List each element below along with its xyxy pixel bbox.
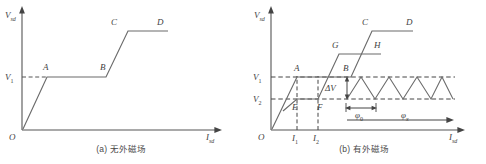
x-axis-b bbox=[271, 127, 465, 133]
point-label-b-A: A bbox=[293, 63, 300, 73]
oscillation-waveform-b bbox=[347, 77, 453, 99]
point-label-a-A: A bbox=[42, 62, 49, 72]
tick-label-v1-a: V1 bbox=[5, 72, 14, 84]
panel-a-no-magnetic-field: Vsd Isd O V1 A B C D (a) 无外磁场 bbox=[0, 0, 243, 164]
point-label-b-E: E bbox=[291, 102, 298, 112]
panel-a-plot: Vsd Isd O V1 A B C D bbox=[0, 0, 243, 164]
point-label-b-D: D bbox=[405, 17, 413, 27]
iv-curve-a bbox=[23, 31, 168, 129]
annotation-phi0: φ0 bbox=[355, 110, 363, 122]
point-label-a-D: D bbox=[156, 17, 164, 27]
y-axis-a bbox=[19, 6, 25, 130]
annotation-phix: φx bbox=[401, 110, 409, 122]
point-label-b-C: C bbox=[362, 17, 369, 27]
iv-curve-upper-b bbox=[272, 31, 413, 129]
point-label-a-B: B bbox=[100, 62, 106, 72]
tick-label-v2-b: V2 bbox=[253, 94, 262, 106]
caption-panel-a: (a) 无外磁场 bbox=[0, 142, 243, 154]
panel-b-with-magnetic-field: Vsd Isd O V1 V2 I1 I2 A B C D E F G H ΔV… bbox=[243, 0, 486, 164]
origin-label-b: O bbox=[258, 132, 265, 142]
y-axis-label-a: Vsd bbox=[5, 10, 17, 22]
y-axis-label-b: Vsd bbox=[254, 10, 266, 22]
figure-root: Vsd Isd O V1 A B C D (a) 无外磁场 bbox=[0, 0, 486, 164]
caption-panel-b: (b) 有外磁场 bbox=[243, 142, 486, 154]
tick-label-v1-b: V1 bbox=[253, 72, 262, 84]
phi0-arrow-b bbox=[345, 103, 377, 112]
y-axis-b bbox=[268, 6, 274, 130]
origin-label-a: O bbox=[9, 132, 16, 142]
panel-b-plot: Vsd Isd O V1 V2 I1 I2 A B C D E F G H ΔV… bbox=[243, 0, 486, 164]
x-axis-a bbox=[22, 127, 222, 133]
point-label-b-B: B bbox=[343, 63, 349, 73]
point-label-a-C: C bbox=[111, 17, 118, 27]
point-label-b-H: H bbox=[373, 40, 381, 50]
annotation-delta-v: ΔV bbox=[324, 83, 337, 93]
point-label-b-G: G bbox=[332, 40, 339, 50]
point-label-b-F: F bbox=[316, 102, 323, 112]
